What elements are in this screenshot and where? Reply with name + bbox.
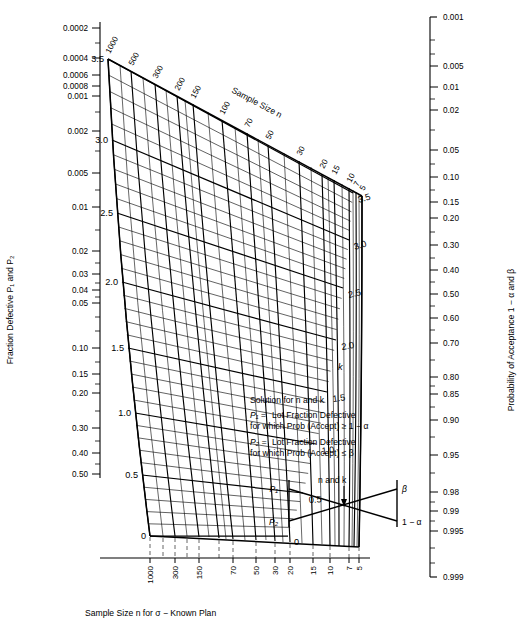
top-n-label: 50 xyxy=(264,128,276,141)
right-tick-label: 0.15 xyxy=(443,198,459,207)
k-axis-label: k xyxy=(338,362,343,372)
k-right-label: 3.0 xyxy=(353,238,368,251)
top-n-label: 300 xyxy=(151,63,165,79)
right-tick-label: 0.70 xyxy=(443,339,459,348)
bottom-tick-label: 5 xyxy=(355,565,364,570)
right-tick-label: 0.10 xyxy=(443,173,459,182)
right-tick-label: 0.50 xyxy=(443,290,459,299)
k-right-label: 1.5 xyxy=(332,392,346,404)
bottom-tick-label: 50 xyxy=(252,565,261,574)
left-tick-label: 0.50 xyxy=(72,470,88,479)
top-sample-size-labels: 1000 500 300 200 150 100 70 50 30 20 15 … xyxy=(104,35,368,192)
right-tick-label: 0.20 xyxy=(443,214,459,223)
right-probability-axis: 0.001 0.005 0.01 0.02 0.05 0.10 0.15 0.2… xyxy=(430,13,464,582)
k-right-label: 0 xyxy=(294,537,299,547)
left-tick-label: 0.15 xyxy=(72,370,88,379)
left-tick-label: 0.40 xyxy=(72,449,88,458)
right-tick-label: 0.80 xyxy=(443,373,459,382)
bottom-tick-label: 70 xyxy=(229,565,238,574)
diagram-alpha-label: 1 − α xyxy=(402,517,422,527)
top-n-label: 1000 xyxy=(104,35,121,55)
right-tick-label: 0.90 xyxy=(443,416,459,425)
top-n-label: 200 xyxy=(173,75,187,91)
top-n-label: 500 xyxy=(127,50,141,66)
left-tick-label: 0.0004 xyxy=(63,54,88,63)
diagram-p1-label: P₁ xyxy=(270,484,279,494)
k-right-label: 2.0 xyxy=(341,340,355,352)
left-tick-label: 0.05 xyxy=(72,299,88,308)
bottom-tick-label: 10 xyxy=(326,565,335,574)
right-tick-label: 0.005 xyxy=(443,62,464,71)
bottom-tick-label: 300 xyxy=(171,565,180,579)
right-tick-label: 0.95 xyxy=(443,451,459,460)
k-curve-major xyxy=(108,59,353,536)
left-tick-label: 0.03 xyxy=(72,270,88,279)
p1-text: Lot Fraction Defective xyxy=(272,410,356,420)
diagram-beta-label: β xyxy=(401,484,407,494)
left-axis-title: Fraction Defective P₁ and P₂ xyxy=(5,256,15,364)
left-tick-label: 0.005 xyxy=(68,169,89,178)
bottom-sample-size-axis: 1000 300 150 70 50 30 20 15 10 7 5 xyxy=(100,558,370,584)
left-tick-label: 0.01 xyxy=(72,203,88,212)
grid-top-edge xyxy=(108,59,362,196)
p1-condition: for which Prob (Accept) ≥ 1 − α xyxy=(250,421,368,431)
left-tick-label: 0.20 xyxy=(72,389,88,398)
nomograph-grid xyxy=(108,59,362,547)
diagram-top-label: n and k xyxy=(318,475,347,485)
bottom-tick-label: 150 xyxy=(195,565,204,579)
p1-lead: P₁ = xyxy=(250,410,266,420)
k-left-label: 2.5 xyxy=(100,208,113,218)
solution-text-block: Solution for n and k P₁ = Lot Fraction D… xyxy=(250,395,368,458)
right-tick-label: 0.01 xyxy=(443,83,459,92)
right-tick-label: 0.30 xyxy=(443,241,459,250)
left-tick-label: 0.002 xyxy=(68,127,89,136)
right-tick-label: 0.99 xyxy=(443,507,459,516)
k-left-label: 0.5 xyxy=(125,470,138,480)
k-left-label: 2.0 xyxy=(105,277,118,287)
right-axis-title: Probability of Acceptance 1 − α and β xyxy=(506,269,516,412)
p2-text: Lot Fraction Defective xyxy=(272,437,356,447)
grid-left-edge xyxy=(108,59,150,536)
n-curve-major xyxy=(108,59,362,547)
diagram-p2-label: P₂ xyxy=(269,517,279,527)
right-tick-label: 0.98 xyxy=(443,488,459,497)
k-left-label: 1.0 xyxy=(118,408,131,418)
bottom-axis-title: Sample Size n for σ − Known Plan xyxy=(85,608,216,618)
left-tick-label: 0.02 xyxy=(72,247,88,256)
top-n-label: 20 xyxy=(318,157,330,170)
bottom-tick-label: 15 xyxy=(309,565,318,574)
top-n-label: 15 xyxy=(330,163,342,176)
right-tick-label: 0.40 xyxy=(443,266,459,275)
k-left-label: 0 xyxy=(141,531,146,541)
right-tick-label: 0.02 xyxy=(443,106,459,115)
left-tick-label: 0.0008 xyxy=(63,82,88,91)
top-n-label: 150 xyxy=(189,83,203,99)
left-tick-label: 0.0006 xyxy=(63,71,88,80)
left-tick-label: 0.04 xyxy=(72,286,88,295)
right-tick-label: 0.60 xyxy=(443,314,459,323)
bottom-tick-label: 30 xyxy=(271,565,280,574)
left-tick-label: 0.0002 xyxy=(63,24,88,33)
k-left-label: 3.5 xyxy=(91,54,104,64)
top-n-label: 30 xyxy=(295,144,307,157)
right-tick-label: 0.999 xyxy=(443,573,464,582)
k-left-label: 1.5 xyxy=(111,343,124,353)
bottom-tick-label: 1000 xyxy=(146,565,155,583)
sample-size-droplines xyxy=(150,537,359,558)
nomograph-figure: 0.0002 0.0004 0.0006 0.0008 0.001 0.002 … xyxy=(0,0,530,623)
left-tick-label: 0.001 xyxy=(68,92,89,101)
right-tick-label: 0.05 xyxy=(443,146,459,155)
right-tick-label: 0.001 xyxy=(443,13,464,22)
k-right-label: 2.5 xyxy=(347,287,362,300)
left-tick-label: 0.10 xyxy=(72,344,88,353)
p2-lead: P₂ = xyxy=(250,437,266,447)
right-tick-label: 0.85 xyxy=(443,390,459,399)
top-n-label: 70 xyxy=(243,116,255,129)
solution-heading: Solution for n and k xyxy=(250,395,325,405)
bottom-tick-label: 7 xyxy=(345,565,354,570)
nomograph-svg: 0.0002 0.0004 0.0006 0.0008 0.001 0.002 … xyxy=(0,0,530,623)
top-n-label: 100 xyxy=(218,99,232,115)
grid-bottom-edge xyxy=(150,536,359,547)
k-left-label: 3.0 xyxy=(95,135,108,145)
top-n-label: 5 xyxy=(358,183,368,192)
